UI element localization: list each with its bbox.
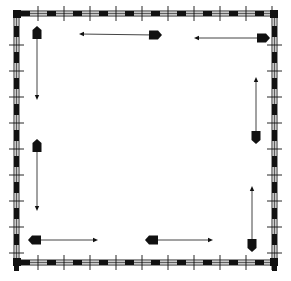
- track-top: [13, 6, 278, 21]
- track-dash: [272, 182, 277, 193]
- arrowhead-icon: [35, 95, 39, 100]
- track-corner: [270, 10, 278, 18]
- arrowhead-icon: [93, 238, 98, 242]
- track-dash: [272, 234, 277, 245]
- track-dash: [272, 208, 277, 219]
- track-dash: [177, 260, 186, 265]
- arrow-right-upper-up: [252, 77, 261, 144]
- arrow-base-icon: [145, 236, 158, 245]
- arrowhead-icon: [194, 36, 199, 40]
- track-dash: [14, 234, 19, 245]
- track-dash: [177, 11, 186, 16]
- arrow-top-left-horizontal: [79, 30, 162, 39]
- arrow-bottom-middle-right: [145, 236, 213, 245]
- track-corner: [13, 258, 21, 266]
- track-dash: [151, 11, 160, 16]
- arrow-base-icon: [248, 239, 257, 252]
- track-dash: [255, 260, 264, 265]
- track-dash: [14, 52, 19, 63]
- arrow-base-icon: [28, 236, 41, 245]
- arrow-base-icon: [252, 131, 261, 144]
- track-dash: [14, 26, 19, 37]
- track-dash: [229, 260, 238, 265]
- track-dash: [272, 156, 277, 167]
- track-dash: [73, 260, 82, 265]
- arrow-right-lower-up: [248, 186, 257, 252]
- arrow-top-right-horizontal: [194, 34, 270, 43]
- track-right: [267, 10, 282, 271]
- track-dash: [125, 11, 134, 16]
- track-dash: [272, 78, 277, 89]
- arrowhead-icon: [208, 238, 213, 242]
- track-dash: [14, 208, 19, 219]
- track-dash: [21, 11, 30, 16]
- track-dash: [73, 11, 82, 16]
- track-frame: [9, 6, 282, 271]
- track-dash: [203, 260, 212, 265]
- track-dash: [203, 11, 212, 16]
- track-dash: [14, 130, 19, 141]
- track-dash: [99, 11, 108, 16]
- track-dash: [125, 260, 134, 265]
- track-dash: [99, 260, 108, 265]
- track-corner: [270, 258, 278, 266]
- track-dash: [47, 11, 56, 16]
- arrow-base-icon: [33, 139, 42, 152]
- arrowhead-icon: [79, 32, 84, 36]
- track-dash: [272, 26, 277, 37]
- track-dash: [14, 104, 19, 115]
- arrow-bottom-left-right: [28, 236, 98, 245]
- track-left: [9, 10, 24, 271]
- arrow-top-left-down: [33, 26, 42, 100]
- track-diagram: [0, 0, 291, 281]
- arrow-base-icon: [33, 26, 42, 39]
- track-dash: [272, 104, 277, 115]
- arrowhead-icon: [254, 77, 258, 82]
- arrow-group: [28, 26, 270, 252]
- track-dash: [255, 11, 264, 16]
- track-dash: [47, 260, 56, 265]
- arrowhead-icon: [35, 206, 39, 211]
- track-dash: [229, 11, 238, 16]
- track-corner: [13, 10, 21, 18]
- arrowhead-icon: [250, 186, 254, 191]
- track-dash: [21, 260, 30, 265]
- track-dash: [14, 78, 19, 89]
- arrow-base-icon: [257, 34, 270, 43]
- track-dash: [14, 182, 19, 193]
- arrow-shaft: [82, 34, 155, 35]
- arrow-base-icon: [149, 30, 162, 39]
- track-dash: [272, 52, 277, 63]
- track-dash: [272, 130, 277, 141]
- track-dash: [151, 260, 160, 265]
- track-dash: [14, 156, 19, 167]
- track-bottom: [13, 255, 278, 270]
- arrow-left-middle-down: [33, 139, 42, 211]
